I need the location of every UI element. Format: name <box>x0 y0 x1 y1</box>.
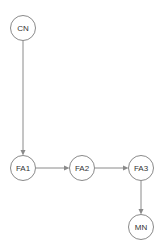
arrowhead-icon <box>123 166 129 171</box>
node-label: FA1 <box>16 164 31 173</box>
edge-fa1-fa2 <box>36 166 70 171</box>
node-fa1[interactable]: FA1 <box>11 156 36 181</box>
node-mn[interactable]: MN <box>129 215 154 240</box>
node-label: MN <box>135 223 148 232</box>
node-label: FA2 <box>75 164 90 173</box>
arrowhead-icon <box>21 150 26 156</box>
arrowhead-icon <box>139 209 144 215</box>
diagram-canvas: CN FA1 FA2 FA3 MN <box>0 0 165 251</box>
edge-fa3-mn <box>139 181 144 215</box>
nodes: CN FA1 FA2 FA3 MN <box>11 16 154 240</box>
node-label: FA3 <box>134 164 149 173</box>
node-label: CN <box>17 24 29 33</box>
edge-fa2-fa3 <box>95 166 129 171</box>
node-fa3[interactable]: FA3 <box>129 156 154 181</box>
arrowhead-icon <box>64 166 70 171</box>
edges <box>21 41 144 215</box>
edge-cn-fa1 <box>21 41 26 156</box>
node-cn[interactable]: CN <box>11 16 36 41</box>
node-fa2[interactable]: FA2 <box>70 156 95 181</box>
